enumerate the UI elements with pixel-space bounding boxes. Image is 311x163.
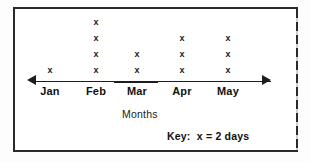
data-column-feb: x x x x Feb	[73, 9, 119, 154]
mark-stack-feb: x x x x	[73, 14, 119, 78]
scanned-page: x Jan x x x x Feb x x Mar	[0, 0, 311, 163]
data-mark: x	[179, 62, 184, 78]
data-mark: x	[179, 30, 184, 46]
chart-key-legend: Key: x = 2 days	[167, 130, 249, 142]
data-mark: x	[134, 46, 139, 62]
x-tick-label-apr: Apr	[159, 85, 205, 97]
mark-stack-jan: x	[27, 62, 73, 78]
data-mark: x	[225, 30, 230, 46]
data-column-jan: x Jan	[27, 9, 73, 154]
x-tick-label-feb: Feb	[73, 85, 119, 97]
x-axis-title: Months	[122, 108, 158, 120]
data-mark: x	[47, 62, 52, 78]
mark-stack-apr: x x x	[159, 30, 205, 78]
x-tick-label-jan: Jan	[27, 85, 73, 97]
data-mark: x	[93, 30, 98, 46]
data-mark: x	[225, 62, 230, 78]
mark-stack-mar: x x	[114, 46, 160, 78]
x-tick-label-mar: Mar	[114, 85, 160, 97]
x-tick-label-may: May	[205, 85, 251, 97]
pictograph-plot: x Jan x x x x Feb x x Mar	[15, 9, 300, 154]
axis-arrow-right-icon	[262, 75, 271, 85]
data-mark: x	[134, 62, 139, 78]
data-mark: x	[93, 14, 98, 30]
data-column-mar: x x Mar	[114, 9, 160, 154]
data-mark: x	[93, 62, 98, 78]
data-mark: x	[179, 46, 184, 62]
data-mark: x	[225, 46, 230, 62]
figure-frame: x Jan x x x x Feb x x Mar	[13, 7, 298, 152]
data-mark: x	[93, 46, 98, 62]
mark-stack-may: x x x	[205, 30, 251, 78]
